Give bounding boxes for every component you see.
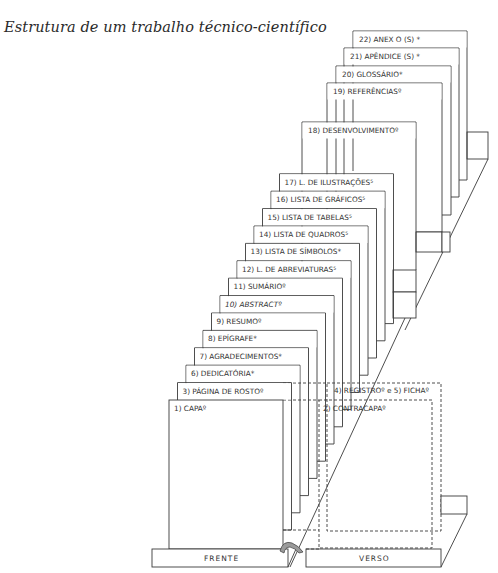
page-label: 19) REFERÊNCIASº — [333, 87, 402, 96]
page-label: 12) L. DE ABREVIATURAS⁵ — [242, 265, 336, 274]
page-label: 8) EPÍGRAFE* — [208, 334, 257, 343]
document-structure-diagram: 22) ANEX O (S) *21) APÊNDICE (S) *20) GL… — [0, 0, 498, 573]
page-label: 13) LISTA DE SÍMBOLOS* — [251, 247, 342, 256]
page-label: 16) LISTA DE GRÁFICOS⁵ — [276, 195, 365, 204]
page-label: 22) ANEX O (S) * — [359, 35, 421, 44]
lower-stack-pages: 17) L. DE ILUSTRAÇÕES⁵16) LISTA DE GRÁFI… — [169, 174, 394, 549]
page-label: 7) AGRADECIMENTOS* — [200, 352, 283, 361]
page-tab — [441, 496, 467, 514]
page-label: 17) L. DE ILUSTRAÇÕES⁵ — [285, 178, 374, 187]
registro-label: 4) REGISTROº e 5) FICHAº — [334, 386, 429, 395]
page-label: 20) GLOSSÁRIO* — [342, 70, 403, 79]
contracapa-page — [319, 400, 432, 548]
page-label: 11) SUMÁRIOº — [234, 282, 287, 291]
capa-page — [169, 400, 283, 549]
page-label: 21) APÊNDICE (S) * — [350, 52, 420, 61]
verso-pages: 4) REGISTROº e 5) FICHAº2) CONTRACAPAº — [283, 383, 467, 567]
back-label: VERSO — [359, 554, 390, 563]
binding-spiral-icon — [280, 542, 303, 553]
page-label: 1) CAPAº — [174, 404, 207, 413]
page-label: 10) ABSTRACTº — [225, 300, 282, 309]
page-label: 9) RESUMOº — [217, 317, 263, 326]
page-tab — [467, 132, 488, 159]
page-label: 15) LISTA DE TABELAS⁵ — [268, 213, 352, 222]
page-label: 14) LISTA DE QUADROS⁵ — [259, 230, 348, 239]
front-label: FRENTE — [204, 554, 239, 563]
page-label: 3) PÁGINA DE ROSTOº — [183, 387, 264, 396]
contracapa-label: 2) CONTRACAPAº — [323, 404, 386, 413]
upper-stack-connectors — [393, 132, 488, 330]
page-label: 18) DESENVOLVIMENTOº — [308, 126, 399, 135]
page-lower: 1) CAPAº — [169, 400, 283, 549]
page-label: 6) DEDICATÓRIA* — [191, 369, 255, 378]
